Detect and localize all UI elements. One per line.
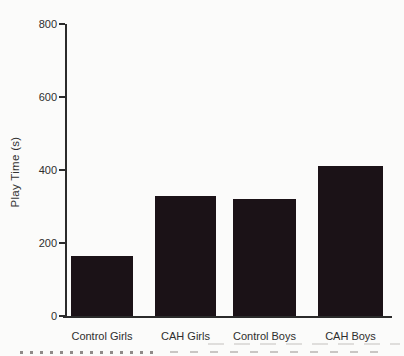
- y-tick-label: 200: [18, 236, 57, 250]
- y-tick-label: 600: [18, 90, 57, 104]
- scanned-figure-page: Play Time (s) 0200400600800 Control Girl…: [0, 0, 404, 356]
- y-tick-label: 400: [18, 163, 57, 177]
- y-tick: [59, 23, 65, 25]
- bar-chart: Play Time (s) 0200400600800 Control Girl…: [0, 0, 404, 356]
- x-category-label: CAH Boys: [303, 330, 399, 342]
- bar-control-boys: [233, 199, 296, 316]
- cut-off-caption-fragment-lower: [20, 351, 390, 356]
- y-axis-line: [65, 24, 67, 317]
- x-axis-line: [63, 316, 392, 319]
- x-category-label: Control Girls: [54, 330, 150, 342]
- bar-control-girls: [71, 256, 133, 316]
- y-tick: [59, 169, 65, 171]
- x-category-label: Control Boys: [217, 330, 313, 342]
- bar-cah-boys: [318, 166, 383, 316]
- y-tick: [59, 96, 65, 98]
- y-tick-label: 0: [18, 309, 57, 323]
- bar-cah-girls: [155, 196, 216, 316]
- cut-off-caption-fragment-upper: [208, 343, 400, 345]
- y-tick-label: 800: [18, 17, 57, 31]
- y-tick: [59, 242, 65, 244]
